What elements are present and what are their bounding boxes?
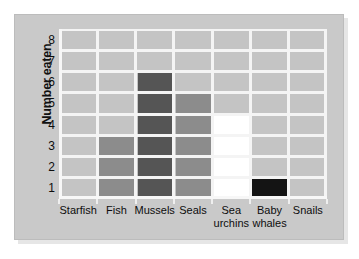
chart-card: Number eaten 12345678 StarfishFishMussel… — [14, 14, 344, 240]
bar-chart: Number eaten 12345678 StarfishFishMussel… — [15, 15, 343, 239]
y-axis-line — [59, 29, 62, 199]
y-tick-label: 3 — [37, 140, 55, 152]
y-tick-label: 8 — [37, 34, 55, 46]
y-tick-label: 6 — [37, 76, 55, 88]
gridline-vertical — [134, 29, 137, 199]
bar-fish — [99, 135, 134, 199]
gridline-vertical — [287, 29, 290, 199]
gridline-vertical — [96, 29, 99, 199]
gridline-vertical — [324, 29, 327, 199]
y-axis-tick-labels: 12345678 — [37, 29, 55, 199]
x-tick-label: Snails — [283, 204, 333, 217]
gridline-vertical — [249, 29, 252, 199]
x-tick-label-line: whales — [244, 217, 294, 230]
plot-area — [59, 29, 327, 199]
x-tick-label-line: Snails — [283, 204, 333, 217]
y-tick-label: 7 — [37, 55, 55, 67]
gridline-vertical — [211, 29, 214, 199]
gridline-vertical — [172, 29, 175, 199]
y-tick-label: 4 — [37, 119, 55, 131]
y-tick-label: 5 — [37, 97, 55, 109]
y-tick-label: 2 — [37, 161, 55, 173]
plot-inner — [59, 29, 327, 199]
page-canvas: Number eaten 12345678 StarfishFishMussel… — [0, 0, 359, 259]
x-axis-tick-labels: StarfishFishMusselsSealsSeaurchinsBabywh… — [59, 204, 327, 238]
y-tick-label: 1 — [37, 182, 55, 194]
bar-seals — [176, 93, 211, 199]
